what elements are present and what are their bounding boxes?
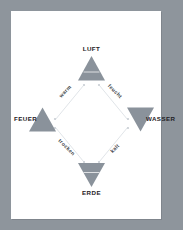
air-triangle	[78, 56, 105, 81]
vertex-dot-bottom-right	[98, 161, 100, 163]
vertex-dot-right-bottom	[127, 127, 129, 129]
element-label-wasser: WASSER	[146, 116, 176, 122]
vertex-dot-top-right	[98, 84, 100, 86]
element-label-erde: ERDE	[0, 190, 183, 196]
diagram-canvas: LUFT WASSER ERDE FEUER warm feucht kalt …	[0, 0, 183, 230]
vertex-dot-bottom-left	[83, 161, 85, 163]
element-label-luft: LUFT	[0, 46, 183, 52]
element-label-feuer: FEUER	[14, 116, 37, 122]
vertex-dot-top-left	[83, 84, 85, 86]
vertex-dot-left-top	[54, 118, 56, 120]
air-symbol	[78, 56, 105, 81]
earth-symbol	[78, 163, 105, 187]
earth-triangle	[78, 163, 105, 187]
vertex-dot-right-top	[127, 118, 129, 120]
